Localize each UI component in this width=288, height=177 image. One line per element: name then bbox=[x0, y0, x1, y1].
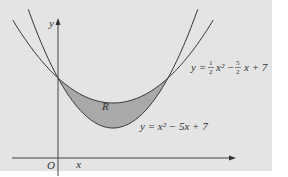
region-label: R bbox=[101, 100, 109, 112]
curve-upper bbox=[13, 20, 213, 103]
svg-text:2: 2 bbox=[209, 68, 213, 76]
svg-text:5: 5 bbox=[236, 59, 240, 67]
chart: y x O R y = 1 2 x² − 5 2 x + 7 y = x² − … bbox=[0, 0, 288, 177]
svg-text:1: 1 bbox=[209, 59, 213, 67]
upper-equation-label: y = 1 2 x² − 5 2 x + 7 bbox=[190, 59, 268, 76]
svg-text:y =: y = bbox=[190, 61, 206, 73]
svg-text:x² −: x² − bbox=[215, 61, 234, 73]
svg-text:2: 2 bbox=[236, 68, 240, 76]
lower-equation-label: y = x² − 5x + 7 bbox=[139, 120, 208, 132]
y-axis-arrow-icon bbox=[56, 18, 61, 25]
svg-text:x + 7: x + 7 bbox=[243, 61, 268, 73]
x-axis-arrow-icon bbox=[229, 156, 236, 161]
x-axis-label: x bbox=[75, 158, 81, 170]
origin-label: O bbox=[47, 159, 55, 171]
y-axis-label: y bbox=[48, 17, 54, 29]
